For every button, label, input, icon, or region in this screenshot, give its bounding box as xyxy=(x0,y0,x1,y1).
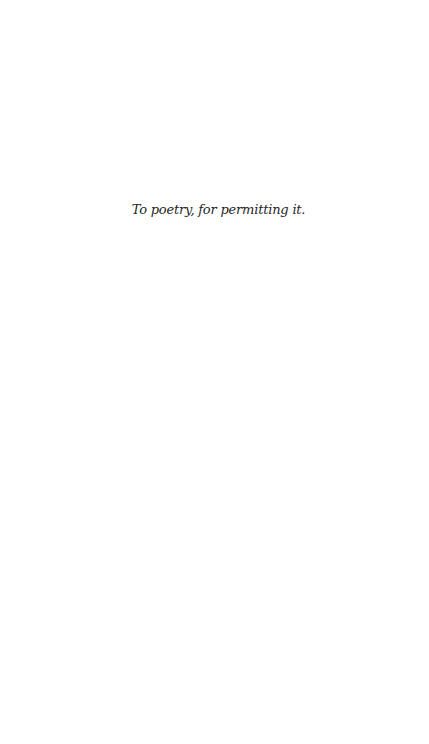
book-page: To poetry, for permitting it. xyxy=(0,0,429,744)
dedication-text: To poetry, for permitting it. xyxy=(0,201,429,219)
